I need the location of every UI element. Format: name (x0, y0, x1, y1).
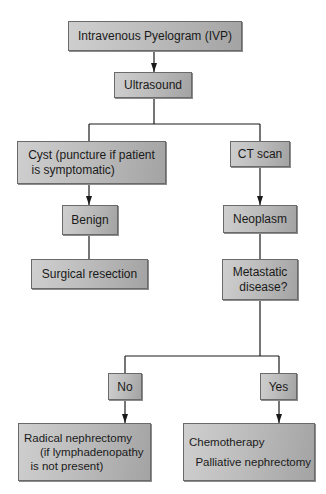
node-no: No (108, 373, 142, 400)
node-chemotherapy-label: Chemotherapy Palliative nephrectomy (189, 437, 311, 467)
node-surgical-resection: Surgical resection (31, 259, 148, 289)
node-surgical-resection-label: Surgical resection (42, 267, 137, 281)
node-benign: Benign (62, 205, 118, 235)
node-ct-scan-label: CT scan (238, 147, 282, 161)
arrowhead-ivp-ultrasound (151, 63, 157, 72)
node-yes: Yes (260, 373, 297, 400)
node-ultrasound: Ultrasound (114, 72, 192, 98)
arrowhead-yes-chemo (276, 414, 282, 423)
node-ivp-label: Intravenous Pyelogram (IVP) (78, 29, 232, 43)
node-no-label: No (117, 380, 132, 394)
node-cyst: Cyst (puncture if patient is symptomatic… (17, 141, 166, 184)
node-metastatic-disease-label: Metastatic disease? (233, 265, 288, 295)
node-neoplasm: Neoplasm (223, 205, 297, 233)
node-yes-label: Yes (269, 380, 289, 394)
node-benign-label: Benign (71, 213, 108, 227)
node-ivp: Intravenous Pyelogram (IVP) (68, 21, 242, 51)
node-radical-nephrectomy-label: Radical nephrectomy (if lymphadenopathy … (24, 431, 144, 473)
node-chemotherapy: Chemotherapy Palliative nephrectomy (183, 423, 315, 481)
node-ct-scan: CT scan (230, 141, 290, 167)
node-radical-nephrectomy: Radical nephrectomy (if lymphadenopathy … (18, 423, 151, 481)
node-cyst-label: Cyst (puncture if patient is symptomatic… (28, 148, 155, 178)
node-metastatic-disease: Metastatic disease? (222, 259, 298, 300)
arrowhead-cyst-benign (86, 196, 92, 205)
arrowhead-no-radical (122, 414, 128, 423)
node-neoplasm-label: Neoplasm (233, 212, 287, 226)
node-ultrasound-label: Ultrasound (124, 78, 182, 92)
arrowhead-ct-neoplasm (257, 196, 263, 205)
